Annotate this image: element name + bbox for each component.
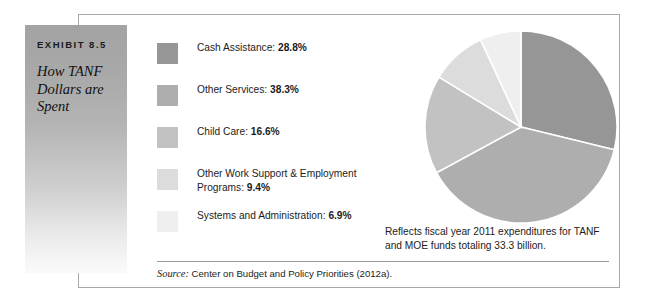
legend-swatch xyxy=(157,127,178,148)
legend-item: Other Services: 38.3% xyxy=(157,83,387,125)
legend-label: Cash Assistance: 28.8% xyxy=(197,41,387,55)
legend-item: Systems and Administration: 6.9% xyxy=(157,209,387,251)
legend-swatch xyxy=(157,169,178,190)
legend-swatch xyxy=(157,43,178,64)
legend-swatch xyxy=(157,85,178,106)
exhibit-panel: EXHIBIT 8.5 How TANF Dollars are Spent C… xyxy=(78,14,620,288)
exhibit-title-panel: EXHIBIT 8.5 How TANF Dollars are Spent xyxy=(25,25,127,273)
legend-value: 38.3% xyxy=(270,84,299,95)
source-divider xyxy=(157,261,609,262)
legend-item: Cash Assistance: 28.8% xyxy=(157,41,387,83)
chart-legend: Cash Assistance: 28.8%Other Services: 38… xyxy=(157,41,387,251)
chart-note: Reflects fiscal year 2011 expenditures f… xyxy=(385,225,617,253)
legend-label: Other Services: 38.3% xyxy=(197,83,387,97)
pie-chart-svg xyxy=(423,29,619,225)
legend-value: 28.8% xyxy=(278,42,307,53)
source-text: Center on Budget and Policy Priorities (… xyxy=(192,268,393,279)
legend-swatch xyxy=(157,211,178,232)
source-prefix: Source: xyxy=(157,268,189,279)
legend-item: Child Care: 16.6% xyxy=(157,125,387,167)
legend-label: Systems and Administration: 6.9% xyxy=(197,209,387,223)
legend-label: Child Care: 16.6% xyxy=(197,125,387,139)
pie-chart xyxy=(423,29,619,225)
source-line: Source: Center on Budget and Policy Prio… xyxy=(157,268,392,279)
legend-value: 16.6% xyxy=(251,126,280,137)
legend-value: 6.9% xyxy=(328,210,351,221)
legend-value: 9.4% xyxy=(247,182,270,193)
exhibit-title: How TANF Dollars are Spent xyxy=(37,63,123,116)
exhibit-number-label: EXHIBIT 8.5 xyxy=(37,39,107,50)
legend-item: Other Work Support & Employment Programs… xyxy=(157,167,387,209)
legend-label: Other Work Support & Employment Programs… xyxy=(197,167,387,194)
